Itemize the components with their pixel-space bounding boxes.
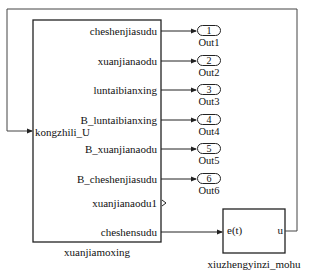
port-label-kongzhili-u: kongzhili_U bbox=[35, 126, 90, 138]
port-label-b-luntaibianxing: B_luntaibianxing bbox=[81, 114, 157, 126]
port-label-luntaibianxing: luntaibianxing bbox=[93, 84, 157, 96]
port-label-b-xuanjianaodu: B_xuanjianaodu bbox=[85, 143, 157, 155]
outport-3-label: Out3 bbox=[194, 96, 224, 107]
outport-5-label: Out5 bbox=[194, 155, 224, 166]
port-label-b-cheshenjiasudu: B_cheshenjiasudu bbox=[77, 173, 157, 185]
port-label-xuanjianaodu1: xuanjianaodu1 bbox=[92, 197, 157, 209]
port-label-e-t: e(t) bbox=[227, 224, 242, 236]
port-label-u: u bbox=[278, 224, 284, 236]
outport-1[interactable]: 1 bbox=[197, 25, 221, 36]
port-label-cheshenjiasudu: cheshenjiasudu bbox=[90, 25, 157, 37]
outport-2[interactable]: 2 bbox=[197, 55, 221, 66]
outport-6-label: Out6 bbox=[194, 185, 224, 196]
outport-5[interactable]: 5 bbox=[197, 143, 221, 154]
outport-4[interactable]: 4 bbox=[197, 114, 221, 125]
outport-3[interactable]: 3 bbox=[197, 84, 221, 95]
port-label-cheshensudu: cheshensudu bbox=[101, 226, 157, 238]
outport-4-label: Out4 bbox=[194, 126, 224, 137]
unconnected-port-chevron-icon bbox=[162, 200, 166, 206]
outport-1-label: Out1 bbox=[194, 37, 224, 48]
outport-2-label: Out2 bbox=[194, 67, 224, 78]
block-name-xuanjiamoxing[interactable]: xuanjiamoxing bbox=[33, 246, 161, 258]
diagram-wires bbox=[0, 0, 309, 280]
block-name-xiuzhengyinzi-mohu[interactable]: xiuzhengyinzi_mohu bbox=[194, 258, 309, 270]
outport-6[interactable]: 6 bbox=[197, 173, 221, 184]
port-label-xuanjianaodu: xuanjianaodu bbox=[98, 55, 157, 67]
